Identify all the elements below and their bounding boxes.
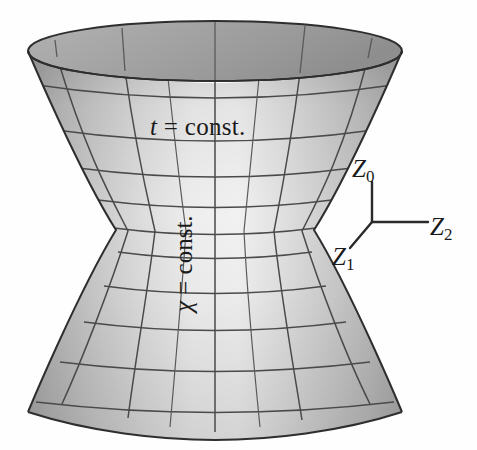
axis-z1-letter: Z (332, 243, 346, 270)
label-t-relation: = const. (157, 113, 245, 140)
axis-label-z1: Z1 (332, 243, 354, 275)
axis-label-z2: Z2 (430, 213, 452, 245)
axis-triad (350, 182, 428, 248)
label-chi-relation: = const. (170, 215, 197, 301)
axis-z1-subscript: 1 (346, 255, 355, 274)
label-t-const: t = const. (150, 113, 246, 141)
axis-z2-subscript: 2 (444, 225, 453, 244)
axis-z2-letter: Z (430, 213, 444, 240)
axis-z0-letter: Z (352, 155, 366, 182)
axis-z0-subscript: 0 (366, 167, 375, 186)
hyperboloid-drawing (0, 0, 477, 450)
label-chi-variable: χ (170, 301, 197, 312)
hyperboloid-figure: t = const. χ = const. Z0 Z2 Z1 (0, 0, 477, 450)
label-chi-const: χ = const. (170, 215, 198, 312)
top-rim (28, 21, 402, 81)
axis-label-z0: Z0 (352, 155, 374, 187)
